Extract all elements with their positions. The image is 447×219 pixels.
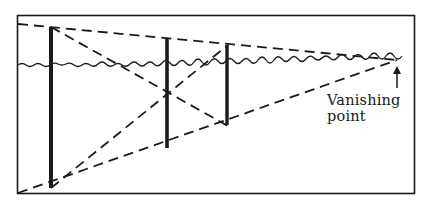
top-perspective-line [18,24,397,60]
vanishing-point-label-line1: Vanishing [327,93,401,108]
poles [51,27,227,188]
vanishing-point-label-line2: point [327,109,366,124]
perspective-diagram [0,0,447,219]
up-arrow-icon [393,66,401,88]
bottom-perspective-line [18,60,397,193]
